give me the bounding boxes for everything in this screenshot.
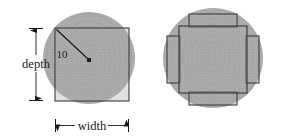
right-board: [246, 36, 259, 83]
figure-root: 10 depth width: [0, 0, 284, 139]
width-label: width: [78, 119, 107, 133]
width-dimension: width: [56, 119, 129, 133]
center-board: [179, 26, 247, 93]
radius-label: 10: [57, 48, 69, 60]
log-center-marker: [87, 58, 91, 62]
cutting-diagram-svg: 10 depth width: [0, 0, 284, 139]
left-panel: 10 depth width: [22, 8, 135, 133]
top-board: [189, 14, 237, 27]
bottom-board: [189, 92, 237, 105]
depth-dimension: depth: [22, 29, 51, 101]
depth-label: depth: [22, 57, 51, 71]
left-board: [167, 36, 180, 83]
right-panel: [163, 0, 263, 115]
